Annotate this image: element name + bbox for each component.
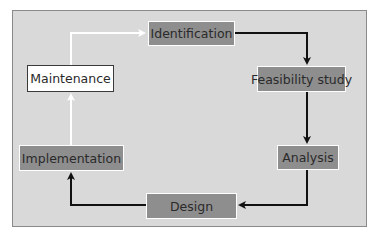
node-label: Identification (151, 26, 233, 41)
node-feasibility-study: Feasibility study (257, 66, 346, 92)
arrow-maintenance-to-identification (71, 33, 144, 65)
node-label: Design (170, 199, 213, 214)
node-analysis: Analysis (277, 145, 339, 170)
node-design: Design (146, 193, 237, 219)
arrow-identification-to-feasibility (235, 33, 307, 63)
node-maintenance: Maintenance (27, 65, 114, 92)
arrow-design-to-implementation (71, 174, 146, 205)
node-label: Maintenance (30, 71, 111, 86)
node-label: Implementation (22, 151, 121, 166)
node-label: Feasibility study (251, 72, 352, 87)
node-label: Analysis (282, 150, 334, 165)
arrow-analysis-to-design (240, 170, 307, 205)
node-implementation: Implementation (19, 145, 124, 171)
node-identification: Identification (148, 21, 235, 46)
